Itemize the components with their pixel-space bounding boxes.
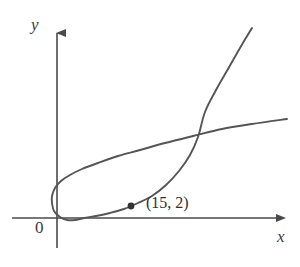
marked-point-dot: [128, 203, 135, 210]
point-coordinate-label: (15, 2): [146, 195, 189, 211]
x-axis-label: x: [277, 228, 285, 245]
origin-label: 0: [35, 219, 44, 236]
parametric-curve-path: [52, 28, 287, 220]
plot-canvas: [0, 0, 300, 267]
y-axis-label: y: [31, 16, 39, 33]
parametric-curve-figure: y x 0 (15, 2): [0, 0, 300, 267]
